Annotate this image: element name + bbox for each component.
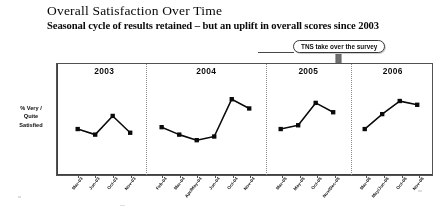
data-point-marker [195,138,199,142]
callout-leader-line [258,52,294,53]
data-point-marker [296,123,300,127]
x-tick-label: Oct-03 [106,176,119,190]
series-line-2004 [162,99,250,140]
x-tick-label: May/Jun-06 [371,176,390,199]
x-tick-label: Nov/Dec-05 [321,176,340,199]
x-tick-label: Feb-04 [155,176,168,191]
x-tick-label: Nov-06 [412,176,425,191]
data-point-marker [75,127,79,131]
x-tick-label: May-05 [292,176,305,191]
slide-canvas: Overall Satisfaction Over Time Seasonal … [0,0,442,211]
x-tick-label: Nov-04 [243,176,256,191]
x-tick-label: Oct-04 [226,176,239,190]
data-point-marker [415,103,419,107]
x-axis-tick-labels: Mar-03Jun-03Oct-03Nov-03Feb-04Mar-04Apr/… [56,176,433,211]
x-tick-label: Apr/May-04 [184,176,203,199]
series-line-2006 [365,101,418,129]
data-point-marker [331,110,335,114]
scan-artifact [418,190,422,192]
x-tick-label: Mar-05 [275,176,288,191]
series-line-2003 [78,116,131,135]
data-point-marker [128,131,132,135]
y-caption-line-1: % Very / [8,104,54,112]
data-point-marker [380,112,384,116]
y-caption-line-3: Satisfied [8,121,54,129]
page-subtitle: Seasonal cycle of results retained – but… [47,20,435,33]
data-point-marker [398,99,402,103]
y-caption-line-2: Quite [8,112,54,120]
title-block: Overall Satisfaction Over Time Seasonal … [47,3,435,32]
data-point-marker [93,132,97,136]
data-point-marker [212,134,216,138]
x-tick-label: Nov-03 [123,176,136,191]
data-point-marker [247,106,251,110]
page-title: Overall Satisfaction Over Time [47,3,435,19]
x-tick-label: Oct-06 [395,176,408,190]
x-tick-label: Mar-03 [71,176,84,191]
data-point-marker [278,127,282,131]
series-line-2005 [281,103,334,129]
chart-frame: 2003200420052006 [56,63,433,176]
plot-area: 2003200420052006 [57,64,432,175]
x-tick-label: Jun-03 [88,176,101,191]
x-tick-label: Oct-05 [310,176,323,190]
satisfaction-line-series [57,64,432,176]
y-axis-caption: % Very / Quite Satisfied [8,104,54,129]
data-point-marker [313,101,317,105]
x-tick-label: Mar-06 [359,176,372,191]
data-point-marker [177,132,181,136]
data-point-marker [159,125,163,129]
data-point-marker [111,114,115,118]
data-point-marker [230,97,234,101]
scan-artifact [120,205,125,206]
x-tick-label: Mar-04 [173,176,186,191]
scan-artifact [18,196,21,198]
callout-tns-takeover: TNS take over the survey [293,40,385,53]
data-point-marker [363,127,367,131]
x-tick-label: Jun-04 [208,176,221,191]
